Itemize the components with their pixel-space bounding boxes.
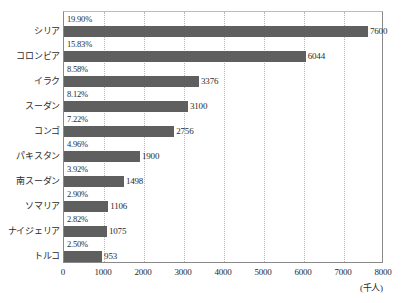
bar-chart: 19.90%760015.83%60448.58%33768.12%31007.… (0, 0, 416, 303)
category-label: コンゴ (0, 125, 60, 137)
bar (64, 201, 108, 212)
bar (64, 26, 368, 37)
bar-row: 19.90%7600 (64, 14, 382, 39)
bar-row: 8.58%3376 (64, 64, 382, 89)
bar-row: 2.50%953 (64, 239, 382, 264)
category-label: コロンビア (0, 50, 60, 62)
bar-value-label: 1106 (108, 200, 127, 212)
bar-value-label: 7600 (368, 25, 387, 37)
plot-area: 19.90%760015.83%60448.58%33768.12%31007.… (63, 11, 383, 263)
category-label: パキスタン (0, 150, 60, 162)
bar-percent-label: 7.22% (66, 114, 89, 125)
bar-value-label: 2756 (174, 125, 193, 137)
bar (64, 226, 107, 237)
bar-percent-label: 2.90% (66, 189, 89, 200)
bar-percent-label: 8.12% (66, 89, 89, 100)
bar-value-label: 1075 (107, 225, 126, 237)
bar-percent-label: 2.82% (66, 214, 89, 225)
bar (64, 151, 140, 162)
category-label: イラク (0, 75, 60, 87)
bar-value-label: 1498 (124, 175, 143, 187)
bar-row: 15.83%6044 (64, 39, 382, 64)
category-label: 南スーダン (0, 175, 60, 187)
bar-row: 2.90%1106 (64, 189, 382, 214)
x-tick-label: 8000 (353, 266, 413, 278)
bar-percent-label: 2.50% (66, 239, 89, 250)
bar (64, 176, 124, 187)
bar-row: 8.12%3100 (64, 89, 382, 114)
bar-percent-label: 3.92% (66, 164, 89, 175)
category-label: スーダン (0, 100, 60, 112)
bar-value-label: 3100 (188, 100, 207, 112)
bar-row: 2.82%1075 (64, 214, 382, 239)
bar-percent-label: 8.58% (66, 64, 89, 75)
category-label: ソマリア (0, 200, 60, 212)
bar (64, 51, 306, 62)
bar-value-label: 953 (102, 250, 117, 262)
bar-value-label: 3376 (199, 75, 218, 87)
bar-row: 3.92%1498 (64, 164, 382, 189)
bar-percent-label: 4.96% (66, 139, 89, 150)
bar-row: 4.96%1900 (64, 139, 382, 164)
bar-percent-label: 15.83% (66, 39, 93, 50)
category-label: シリア (0, 25, 60, 37)
bar (64, 101, 188, 112)
bar (64, 251, 102, 262)
category-label: ナイジェリア (0, 225, 60, 237)
x-axis-unit-label: (千人) (360, 282, 383, 294)
category-label: トルコ (0, 250, 60, 262)
bar (64, 76, 199, 87)
bar-value-label: 1900 (140, 150, 159, 162)
bar (64, 126, 174, 137)
bar-value-label: 6044 (306, 50, 325, 62)
bar-row: 7.22%2756 (64, 114, 382, 139)
bar-percent-label: 19.90% (66, 14, 93, 25)
